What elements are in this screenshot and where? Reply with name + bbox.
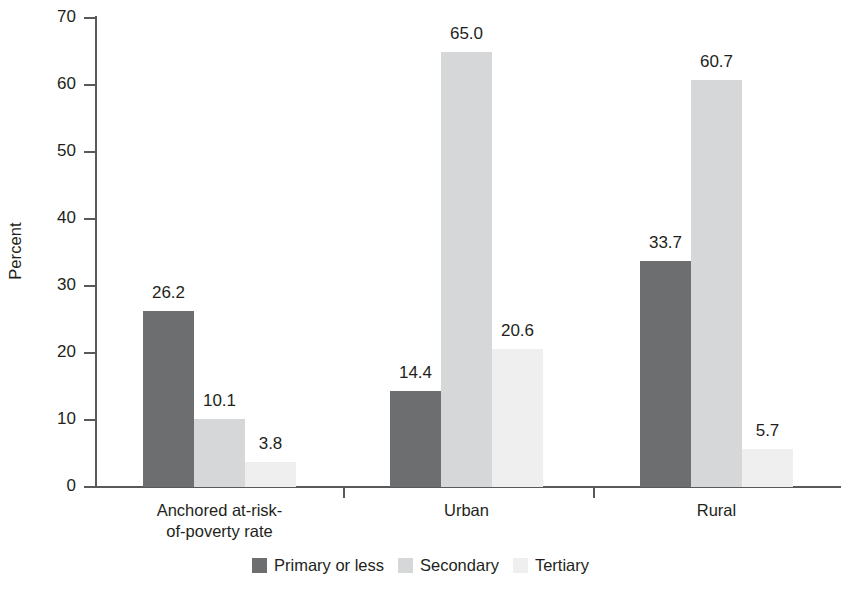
x-axis-group-label: Rural — [607, 500, 827, 521]
legend-item: Primary or less — [252, 556, 384, 575]
x-axis-group-label-line: Urban — [357, 500, 577, 521]
x-axis-group-label-line: Rural — [607, 500, 827, 521]
legend-swatch-icon — [252, 558, 267, 573]
legend-item: Tertiary — [513, 556, 589, 575]
legend-label: Tertiary — [535, 556, 589, 575]
bar-value-label: 26.2 — [131, 283, 206, 303]
bar — [640, 261, 691, 487]
bar — [245, 462, 296, 487]
legend-item: Secondary — [398, 556, 499, 575]
bar — [742, 449, 793, 487]
legend-swatch-icon — [398, 558, 413, 573]
bar — [492, 349, 543, 487]
bar-value-label: 3.8 — [233, 434, 308, 454]
x-axis-group-label-line: of-poverty rate — [110, 521, 330, 542]
bar-value-label: 5.7 — [730, 421, 805, 441]
bar-chart: Percent 010203040506070 26.210.13.814.46… — [0, 0, 841, 590]
x-axis-group-label: Urban — [357, 500, 577, 521]
bar — [441, 52, 492, 488]
bar-value-label: 20.6 — [480, 321, 555, 341]
legend-label: Primary or less — [274, 556, 384, 575]
legend-label: Secondary — [420, 556, 499, 575]
x-axis-group-label: Anchored at-risk-of-poverty rate — [110, 500, 330, 542]
bar-value-label: 10.1 — [182, 391, 257, 411]
bar — [390, 391, 441, 487]
bar-value-label: 65.0 — [429, 24, 504, 44]
x-axis-group-label-line: Anchored at-risk- — [110, 500, 330, 521]
bar-value-label: 60.7 — [679, 52, 754, 72]
chart-legend: Primary or lessSecondaryTertiary — [0, 556, 841, 575]
legend-swatch-icon — [513, 558, 528, 573]
